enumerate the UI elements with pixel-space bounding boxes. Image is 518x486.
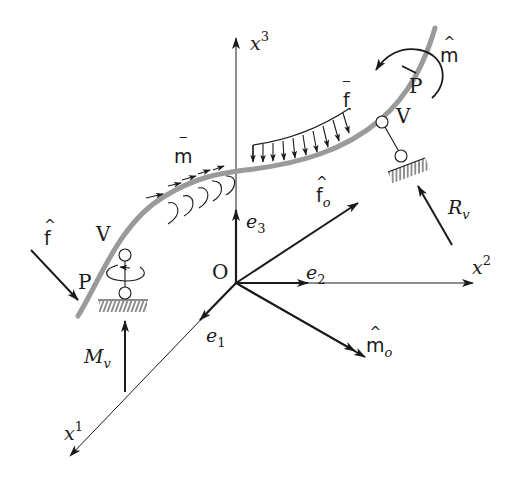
- right-reaction-force-label: Rv: [448, 198, 470, 221]
- e2-label: e2: [306, 263, 326, 286]
- distributed-force-load: [253, 108, 350, 162]
- axis-x1-label: x1: [64, 420, 83, 443]
- resultant-moment-arrow-second-head: [236, 283, 355, 351]
- right-point-label: P: [409, 76, 422, 96]
- base-vector-e1: [200, 283, 236, 320]
- axis-x2-label: x2: [472, 254, 491, 277]
- axis-x3-label: x3: [250, 30, 269, 53]
- resultant-force-label: ^fo: [316, 186, 331, 209]
- distributed-moment-label: ‾m: [174, 147, 193, 166]
- rod-curve: [78, 28, 435, 316]
- resultant-moment-label: ^mo: [366, 336, 392, 359]
- distributed-force-label: ‾f: [343, 91, 350, 110]
- e1-label: e1: [206, 326, 226, 349]
- rod-diagram: [0, 0, 518, 486]
- left-support-label: V: [96, 224, 110, 244]
- left-reaction-moment-label: Mv: [84, 347, 111, 370]
- left-point-label: P: [78, 272, 91, 292]
- right-support-label: V: [396, 106, 410, 126]
- left-applied-force-label: ^f: [44, 229, 51, 248]
- left-support: [98, 249, 148, 312]
- right-applied-moment-label: ^m: [440, 46, 459, 65]
- origin-label: O: [212, 262, 228, 282]
- left-applied-force-arrow: [31, 250, 78, 300]
- e3-label: e3: [246, 212, 266, 235]
- right-reaction-force-arrow: [418, 186, 452, 245]
